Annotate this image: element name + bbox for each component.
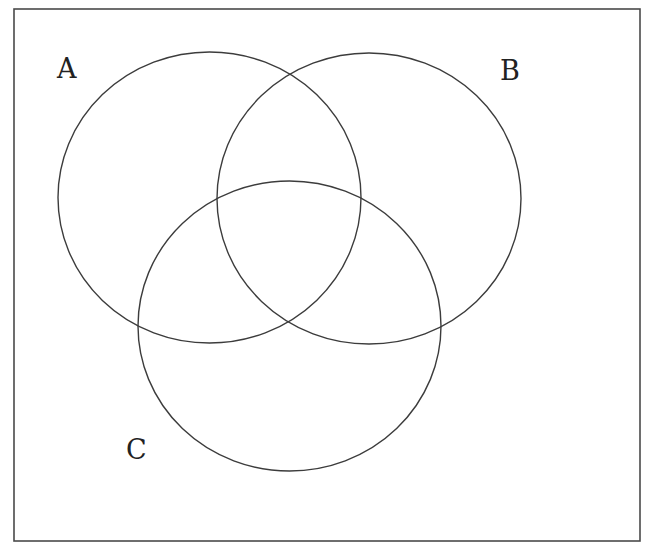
set-c-label: C bbox=[126, 434, 147, 465]
set-a-label: A bbox=[56, 53, 77, 84]
venn-diagram: A B C bbox=[0, 0, 645, 554]
set-b-circle bbox=[217, 53, 521, 344]
set-b-label: B bbox=[500, 55, 520, 86]
set-c-circle bbox=[138, 181, 441, 471]
set-a-circle bbox=[58, 52, 361, 343]
